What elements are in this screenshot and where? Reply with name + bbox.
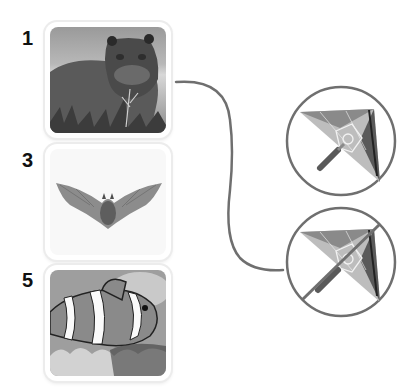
clownfish-photo-card[interactable] bbox=[45, 265, 171, 381]
connector-line[interactable] bbox=[176, 82, 283, 271]
prohibition-slash-icon bbox=[302, 224, 380, 300]
kite-icon bbox=[300, 109, 380, 182]
magnifier-handle-icon bbox=[320, 144, 344, 168]
bat-photo-card[interactable] bbox=[45, 144, 171, 260]
kite-allowed-symbol[interactable] bbox=[287, 87, 395, 195]
kite-prohibited-symbol[interactable] bbox=[287, 208, 395, 316]
item-number-5: 5 bbox=[22, 270, 33, 290]
hippo-photo-card[interactable] bbox=[45, 22, 171, 138]
item-number-3: 3 bbox=[22, 150, 33, 170]
hippo-image bbox=[50, 27, 166, 133]
bat-image bbox=[50, 149, 166, 255]
item-number-1: 1 bbox=[22, 28, 33, 48]
clownfish-image bbox=[50, 270, 166, 376]
